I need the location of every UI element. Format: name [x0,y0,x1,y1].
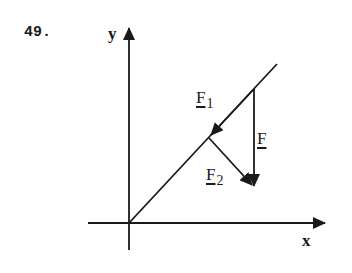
vector-f2-subscript: 2 [216,173,223,188]
vector-f-symbol: F [257,129,266,148]
force-decomposition-figure: 49. y x F1 F F2 [0,0,352,273]
y-axis-label: y [108,25,117,42]
vector-f1-symbol: F [196,88,205,107]
x-axis-label: x [302,232,311,249]
diagram-canvas [0,0,352,273]
problem-number: 49. [24,25,51,40]
vector-f2-label: F2 [206,166,223,183]
vector-f1-label: F1 [196,89,213,106]
vector-f2-symbol: F [206,165,215,184]
vector-f1-arrow [211,89,254,135]
vector-f1-subscript: 1 [206,96,213,111]
vector-f-label: F [257,130,266,147]
